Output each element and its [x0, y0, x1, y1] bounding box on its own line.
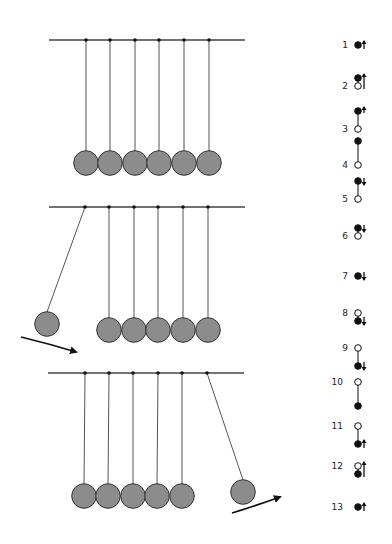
filled-ball-icon	[355, 42, 362, 49]
step-number: 1	[342, 40, 348, 50]
filled-ball-icon	[355, 441, 362, 448]
sequence-step-5: 5	[342, 178, 366, 204]
string	[207, 373, 243, 480]
pendulum-ball	[35, 312, 60, 337]
step-number: 8	[342, 308, 348, 318]
open-ball-icon	[355, 310, 362, 317]
filled-ball-icon	[355, 75, 362, 82]
step-number: 2	[342, 81, 348, 91]
filled-ball-icon	[355, 471, 362, 478]
open-ball-icon	[355, 463, 362, 470]
sequence-step-3: 3	[342, 106, 366, 134]
cradle-panel-rest	[49, 38, 245, 175]
newtons-cradle-diagram: 12345678910111213	[0, 0, 392, 544]
open-ball-icon	[355, 345, 362, 352]
up-arrow-icon	[362, 502, 367, 506]
string	[47, 207, 85, 312]
sequence-step-9: 9	[342, 343, 366, 371]
pendulum-ball	[171, 318, 196, 343]
pivot-dot	[107, 205, 111, 209]
string	[108, 373, 109, 484]
sequence-step-6: 6	[342, 225, 366, 241]
pivot-dot	[180, 371, 184, 375]
pendulum-ball	[170, 484, 195, 509]
sequence-step-12: 12	[332, 461, 367, 477]
open-ball-icon	[355, 379, 362, 386]
cradle-panel-incoming	[21, 205, 245, 352]
open-ball-icon	[355, 162, 362, 169]
motion-arrow-icon	[21, 337, 76, 352]
step-number: 4	[342, 160, 348, 170]
pivot-dot	[83, 371, 87, 375]
step-number: 9	[342, 343, 348, 353]
step-number: 10	[332, 377, 344, 387]
sequence-step-2: 2	[342, 73, 366, 91]
pendulum-ball	[231, 480, 256, 505]
up-arrow-icon	[362, 73, 367, 77]
filled-ball-icon	[355, 108, 362, 115]
filled-ball-icon	[355, 363, 362, 370]
pendulum-ball	[72, 484, 97, 509]
open-ball-icon	[355, 423, 362, 430]
filled-ball-icon	[355, 318, 362, 325]
pendulum-ball	[196, 318, 221, 343]
pendulum-ball	[145, 484, 170, 509]
open-ball-icon	[355, 126, 362, 133]
pivot-dot	[206, 205, 210, 209]
up-arrow-icon	[362, 40, 367, 44]
string	[157, 373, 158, 484]
pivot-dot	[181, 205, 185, 209]
up-arrow-icon	[362, 461, 367, 465]
pivot-dot	[83, 205, 87, 209]
pendulum-ball	[122, 318, 147, 343]
pendulum-ball	[97, 318, 122, 343]
cradle-panels	[21, 38, 280, 513]
sequence-step-1: 1	[342, 40, 366, 50]
pivot-dot	[156, 371, 160, 375]
step-number: 13	[332, 502, 343, 512]
sequence-step-10: 10	[332, 377, 362, 409]
up-arrow-icon	[362, 439, 367, 443]
step-number: 5	[342, 194, 348, 204]
up-arrow-icon	[362, 106, 367, 110]
open-ball-icon	[355, 83, 362, 90]
pendulum-ball	[121, 484, 146, 509]
pivot-dot	[84, 38, 88, 42]
sequence-step-4: 4	[342, 138, 361, 170]
sequence-step-11: 11	[332, 421, 367, 448]
step-number: 7	[342, 271, 348, 281]
pivot-dot	[205, 371, 209, 375]
pivot-dot	[131, 371, 135, 375]
filled-ball-icon	[355, 138, 362, 145]
down-arrow-icon	[362, 367, 367, 371]
pivot-dot	[132, 205, 136, 209]
down-arrow-icon	[362, 277, 367, 281]
open-ball-icon	[355, 196, 362, 203]
pendulum-ball	[197, 151, 222, 176]
pendulum-ball	[96, 484, 121, 509]
sequence-step-13: 13	[332, 502, 367, 512]
sequence-step-8: 8	[342, 308, 366, 326]
open-ball-icon	[355, 233, 362, 240]
pivot-dot	[108, 38, 112, 42]
filled-ball-icon	[355, 504, 362, 511]
pivot-dot	[156, 205, 160, 209]
filled-ball-icon	[355, 403, 362, 410]
step-number: 12	[332, 461, 343, 471]
sequence-step-7: 7	[342, 271, 366, 281]
pivot-dot	[182, 38, 186, 42]
filled-ball-icon	[355, 225, 362, 232]
down-arrow-icon	[362, 322, 367, 326]
string	[84, 373, 85, 484]
pivot-dot	[133, 38, 137, 42]
filled-ball-icon	[355, 178, 362, 185]
pendulum-ball	[172, 151, 197, 176]
pendulum-ball	[146, 318, 171, 343]
filled-ball-icon	[355, 273, 362, 280]
pendulum-ball	[147, 151, 172, 176]
pendulum-ball	[74, 151, 99, 176]
down-arrow-icon	[362, 229, 367, 233]
pendulum-ball	[98, 151, 123, 176]
step-number: 6	[342, 231, 348, 241]
cradle-panel-outgoing	[48, 371, 280, 513]
